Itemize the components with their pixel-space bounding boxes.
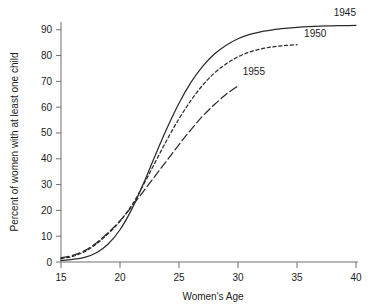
x-tick-label-20: 20 [114, 272, 126, 283]
chart-page: 0102030405060708090152025303540 19451950… [0, 0, 370, 306]
x-axis-title: Women's Age [182, 291, 244, 302]
series-label-1950: 1950 [304, 28, 327, 39]
y-tick-label-0: 0 [46, 257, 52, 268]
series-line-1955 [61, 86, 238, 258]
curves-layer [61, 25, 356, 260]
x-tick-label-35: 35 [291, 272, 303, 283]
x-tick-label-15: 15 [55, 272, 67, 283]
series-line-1945 [61, 25, 356, 260]
y-tick-label-90: 90 [41, 24, 53, 35]
series-labels-layer: 194519501955 [243, 7, 357, 77]
axis-titles-layer: Women's Age Percent of women with at lea… [9, 53, 244, 302]
x-tick-label-30: 30 [232, 272, 244, 283]
y-tick-label-30: 30 [41, 179, 53, 190]
axes-layer: 0102030405060708090152025303540 [41, 22, 362, 283]
y-tick-label-20: 20 [41, 205, 53, 216]
y-tick-label-10: 10 [41, 231, 53, 242]
series-label-1955: 1955 [243, 66, 266, 77]
y-tick-label-60: 60 [41, 102, 53, 113]
y-tick-label-80: 80 [41, 50, 53, 61]
y-tick-label-50: 50 [41, 127, 53, 138]
x-tick-label-40: 40 [350, 272, 362, 283]
line-chart: 0102030405060708090152025303540 19451950… [0, 0, 370, 306]
y-axis-title: Percent of women with at least one child [9, 53, 20, 232]
series-label-1945: 1945 [334, 7, 357, 18]
y-tick-label-40: 40 [41, 153, 53, 164]
y-tick-label-70: 70 [41, 76, 53, 87]
x-tick-label-25: 25 [173, 272, 185, 283]
